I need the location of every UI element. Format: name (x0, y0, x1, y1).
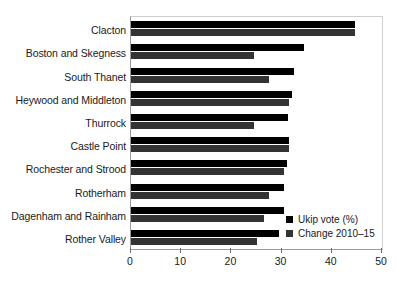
x-axis: 01020304050 (130, 248, 382, 278)
x-tick-label: 40 (325, 255, 337, 267)
category-label: Castle Point (71, 141, 126, 152)
bar-0-6 (131, 160, 287, 167)
chart-legend: Ukip vote (%)Change 2010–15 (286, 213, 382, 241)
legend-swatch-icon (286, 216, 293, 223)
x-tick-label: 0 (127, 255, 133, 267)
x-tick-mark (130, 248, 131, 253)
legend-entry-0: Ukip vote (%) (286, 213, 382, 226)
x-tick-mark (180, 248, 181, 253)
bar-0-5 (131, 137, 289, 144)
x-tick-label: 20 (225, 255, 237, 267)
bar-0-1 (131, 44, 304, 51)
bar-0-3 (131, 91, 292, 98)
bar-1-3 (131, 99, 289, 106)
bar-0-8 (131, 207, 284, 214)
bar-1-6 (131, 168, 284, 175)
bar-0-4 (131, 114, 288, 121)
bar-1-9 (131, 238, 257, 245)
x-tick-mark (381, 248, 382, 253)
category-label: Rotherham (75, 188, 126, 199)
bar-1-7 (131, 192, 269, 199)
category-label: South Thanet (64, 72, 126, 83)
legend-label: Ukip vote (%) (298, 214, 358, 225)
x-tick-label: 50 (375, 255, 387, 267)
bar-1-4 (131, 122, 254, 129)
x-tick-mark (230, 248, 231, 253)
legend-label: Change 2010–15 (298, 228, 375, 239)
bar-0-7 (131, 184, 284, 191)
legend-swatch-icon (286, 230, 293, 237)
category-label: Thurrock (85, 118, 126, 129)
bar-1-2 (131, 76, 269, 83)
category-label: Boston and Skegness (26, 48, 126, 59)
x-tick-mark (331, 248, 332, 253)
category-label: Dagenham and Rainham (11, 211, 126, 222)
bar-0-0 (131, 21, 355, 28)
bar-chart: ClactonBoston and SkegnessSouth ThanetHe… (0, 0, 397, 281)
bar-1-5 (131, 145, 289, 152)
x-tick-label: 30 (275, 255, 287, 267)
legend-entry-1: Change 2010–15 (286, 227, 382, 240)
category-label: Heywood and Middleton (15, 95, 126, 106)
bar-1-8 (131, 215, 264, 222)
category-label: Rother Valley (65, 234, 126, 245)
category-label: Clacton (91, 25, 126, 36)
category-axis: ClactonBoston and SkegnessSouth ThanetHe… (0, 16, 130, 248)
bar-0-9 (131, 230, 279, 237)
x-tick-label: 10 (174, 255, 186, 267)
bar-0-2 (131, 68, 294, 75)
bar-1-1 (131, 52, 254, 59)
bar-1-0 (131, 29, 355, 36)
category-label: Rochester and Strood (26, 164, 126, 175)
x-tick-mark (281, 248, 282, 253)
